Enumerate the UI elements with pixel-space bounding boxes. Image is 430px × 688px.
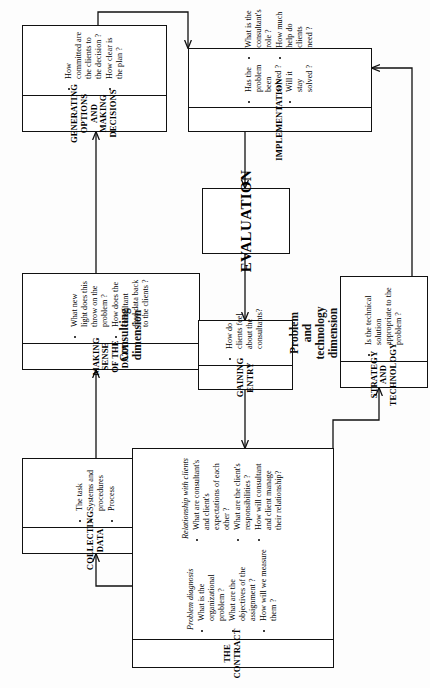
bullet-item: What are consultant's and client's expec… xyxy=(192,456,232,530)
bullet-item: Will it stay solved ? xyxy=(285,65,315,92)
edge-strategy-to-implementation xyxy=(372,68,412,276)
label-problem-technology-dimension: Problem and technology dimension xyxy=(288,278,340,388)
column-subtitle: Problem diagnosis xyxy=(186,547,196,630)
bullet-item: What is the consultant's role ? xyxy=(244,9,274,47)
node-title: IMPLEMENTATION xyxy=(189,107,371,131)
bullet-item: How much help do clients need ? xyxy=(275,9,315,47)
bullet-list: How do clients feel about the consultant… xyxy=(225,309,266,360)
node-column-problem-diagnosis: Problem diagnosis What is the organizati… xyxy=(138,547,328,632)
rotated-diagram-surface: COLLECTING DATA The task Systems and pro… xyxy=(0,0,430,688)
node-title: MAKING SENSE OF THE DATA xyxy=(23,343,199,369)
node-body: Has the problem been solved ? Will it st… xyxy=(189,5,371,107)
bullet-list: Is the technical solution appropriate to… xyxy=(364,282,405,356)
bullet-item: Process xyxy=(107,464,117,511)
node-generating-options[interactable]: GENERATING OPTIONS AND MAKING DECISIONS … xyxy=(22,25,167,132)
node-title: THE CONTRACT xyxy=(133,639,333,667)
node-implementation[interactable]: IMPLEMENTATION Has the problem been solv… xyxy=(188,48,372,132)
bullet-list: What are consultant's and client's expec… xyxy=(192,456,285,541)
node-column-outcome: Has the problem been solved ? Will it st… xyxy=(193,65,367,103)
bullet-item: What are the client's responsibilities ? xyxy=(233,456,253,530)
node-the-contract[interactable]: THE CONTRACT Problem diagnosis What is t… xyxy=(132,448,334,668)
bullet-item: How do clients feel about the consultant… xyxy=(225,309,265,349)
bullet-list: Has the problem been solved ? Will it st… xyxy=(244,65,316,103)
bullet-item: The task xyxy=(75,464,85,511)
node-body: Problem diagnosis What is the organizati… xyxy=(133,449,333,639)
node-strategy-and-technology[interactable]: STRATEGY AND TECHNOLOGY Is the technical… xyxy=(340,276,428,388)
node-making-sense-of-data[interactable]: MAKING SENSE OF THE DATA What new light … xyxy=(22,273,200,370)
node-column-role: What is the consultant's role ? How much… xyxy=(193,9,367,58)
node-body: How do clients feel about the consultant… xyxy=(199,304,292,365)
column-subtitle: Relationship with clients xyxy=(181,456,191,539)
node-title: EVALUATION xyxy=(238,170,255,273)
node-evaluation[interactable]: EVALUATION xyxy=(202,188,290,254)
bullet-list: How committed are the clients to the dec… xyxy=(64,31,126,90)
bullet-item: What are the objectives of the assignmen… xyxy=(228,547,258,621)
bullet-item: Has the problem been solved ? xyxy=(244,65,284,92)
bullet-item: Is the technical solution appropriate to… xyxy=(364,282,404,345)
label-line-1: Problem xyxy=(288,278,301,388)
bullet-item: Systems and procedures xyxy=(86,464,106,511)
label-line-3: technology xyxy=(314,278,327,388)
bullet-item: How will consultant and client manage th… xyxy=(254,456,284,530)
node-title-line-2: AND MAKING DECISIONS xyxy=(90,89,119,137)
bullet-item: How clear is the plan ? xyxy=(105,31,125,79)
label-line-1: Consulting xyxy=(118,280,131,390)
label-consulting-dimension: Consulting dimension xyxy=(118,280,144,390)
node-title: STRATEGY AND TECHNOLOGY xyxy=(341,361,427,387)
label-line-2: dimension xyxy=(131,280,144,390)
bullet-item: What new light does this throw on the pr… xyxy=(70,279,110,327)
node-title: GENERATING OPTIONS AND MAKING DECISIONS xyxy=(23,95,166,131)
node-gaining-entry[interactable]: GAINING ENTRY How do clients feel about … xyxy=(198,320,293,390)
bullet-item: How will we measure them ? xyxy=(259,547,279,621)
node-body: Is the technical solution appropriate to… xyxy=(341,277,427,361)
diagram-canvas: COLLECTING DATA The task Systems and pro… xyxy=(0,0,430,688)
bullet-list: What is the consultant's role ? How much… xyxy=(244,9,316,58)
node-body: What new light does this throw on the pr… xyxy=(23,274,199,343)
node-column-relationship-with-clients: Relationship with clients What are consu… xyxy=(138,456,328,541)
label-line-4: dimension xyxy=(327,278,340,388)
node-title: GAINING ENTRY xyxy=(199,365,292,389)
bullet-list: The task Systems and procedures Process xyxy=(75,464,118,522)
bullet-item: How committed are the clients to the dec… xyxy=(64,31,104,79)
label-line-2: and xyxy=(301,278,314,388)
bullet-item: What is the organizational problem ? xyxy=(197,547,227,621)
bullet-list: What is the organizational problem ? Wha… xyxy=(197,547,280,632)
node-body: How committed are the clients to the dec… xyxy=(23,26,166,95)
